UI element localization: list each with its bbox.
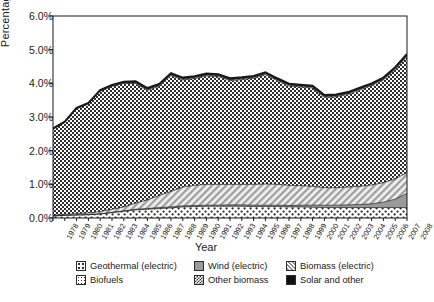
- y-tick-label: 0.0%: [29, 212, 53, 224]
- legend-label-other-biomass: Other biomass: [208, 275, 268, 285]
- legend-item-geothermal-electric[interactable]: Geothermal (electric): [76, 261, 194, 271]
- y-axis-title: Percentage: [0, 0, 11, 78]
- y-tick-label: 4.0%: [29, 77, 53, 89]
- legend-item-biofuels[interactable]: Biofuels: [76, 275, 194, 285]
- x-axis-title: Year: [0, 241, 412, 253]
- legend-label-biomass-electric: Biomass (electric): [300, 261, 374, 271]
- legend-swatch-wind-electric: [194, 261, 204, 271]
- y-tick-label: 2.0%: [29, 145, 53, 157]
- legend-label-wind-electric: Wind (electric): [208, 261, 267, 271]
- y-tick-label: 6.0%: [29, 10, 53, 22]
- legend-item-biomass-electric[interactable]: Biomass (electric): [286, 261, 404, 271]
- legend-swatch-other-biomass: [194, 275, 204, 285]
- legend-label-solar-and-other: Solar and other: [300, 275, 364, 285]
- legend-swatch-biomass-electric: [286, 261, 296, 271]
- y-tick-label: 3.0%: [29, 111, 53, 123]
- legend-item-other-biomass[interactable]: Other biomass: [194, 275, 286, 285]
- legend-item-solar-and-other[interactable]: Solar and other: [286, 275, 404, 285]
- legend-swatch-geothermal-electric: [76, 261, 86, 271]
- y-tick-label: 5.0%: [29, 44, 53, 56]
- legend-item-wind-electric[interactable]: Wind (electric): [194, 261, 286, 271]
- legend-label-biofuels: Biofuels: [90, 275, 123, 285]
- legend-swatch-solar-and-other: [286, 275, 296, 285]
- y-tick-label: 1.0%: [29, 178, 53, 190]
- chart-legend: Geothermal (electric) Wind (electric) Bi…: [76, 259, 406, 287]
- legend-swatch-biofuels: [76, 275, 86, 285]
- legend-label-geothermal-electric: Geothermal (electric): [90, 261, 177, 271]
